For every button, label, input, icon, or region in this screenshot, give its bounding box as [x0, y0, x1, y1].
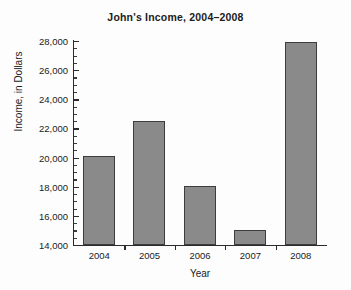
bar-2005[interactable]: [133, 121, 165, 245]
bar-2008[interactable]: [285, 42, 317, 245]
y-axis-tick-label: 28,000: [24, 36, 68, 47]
y-axis-tick-label: 22,000: [24, 123, 68, 134]
x-axis-line: [73, 245, 327, 246]
bar-2004[interactable]: [83, 156, 115, 245]
y-axis-tick-labels: 28,00026,00024,00022,00020,00018,00016,0…: [22, 0, 68, 290]
y-axis-tick-label: 20,000: [24, 152, 68, 163]
y-axis-tick-label: 26,000: [24, 65, 68, 76]
x-axis-tick-label: 2007: [225, 250, 275, 261]
bar-chart-figure: John's Income, 2004–2008 Income, in Doll…: [0, 0, 351, 290]
bar-slot: [225, 41, 275, 245]
plot-area: [74, 41, 326, 245]
x-axis-tick-label: 2004: [74, 250, 124, 261]
y-axis-tick-label: 14,000: [24, 240, 68, 251]
y-axis-tick-label: 16,000: [24, 210, 68, 221]
x-axis-tick-label: 2006: [175, 250, 225, 261]
x-axis-title: Year: [74, 268, 326, 279]
bar-slot: [74, 41, 124, 245]
y-axis-tick-label: 18,000: [24, 181, 68, 192]
bar-2007[interactable]: [234, 230, 266, 245]
x-axis-tick-label: 2008: [276, 250, 326, 261]
bar-slot: [175, 41, 225, 245]
bar-2006[interactable]: [184, 186, 216, 245]
y-axis-major-tick: [74, 245, 79, 246]
bar-slot: [276, 41, 326, 245]
x-axis-tick-label: 2005: [124, 250, 174, 261]
bar-slot: [124, 41, 174, 245]
y-axis-tick-label: 24,000: [24, 94, 68, 105]
